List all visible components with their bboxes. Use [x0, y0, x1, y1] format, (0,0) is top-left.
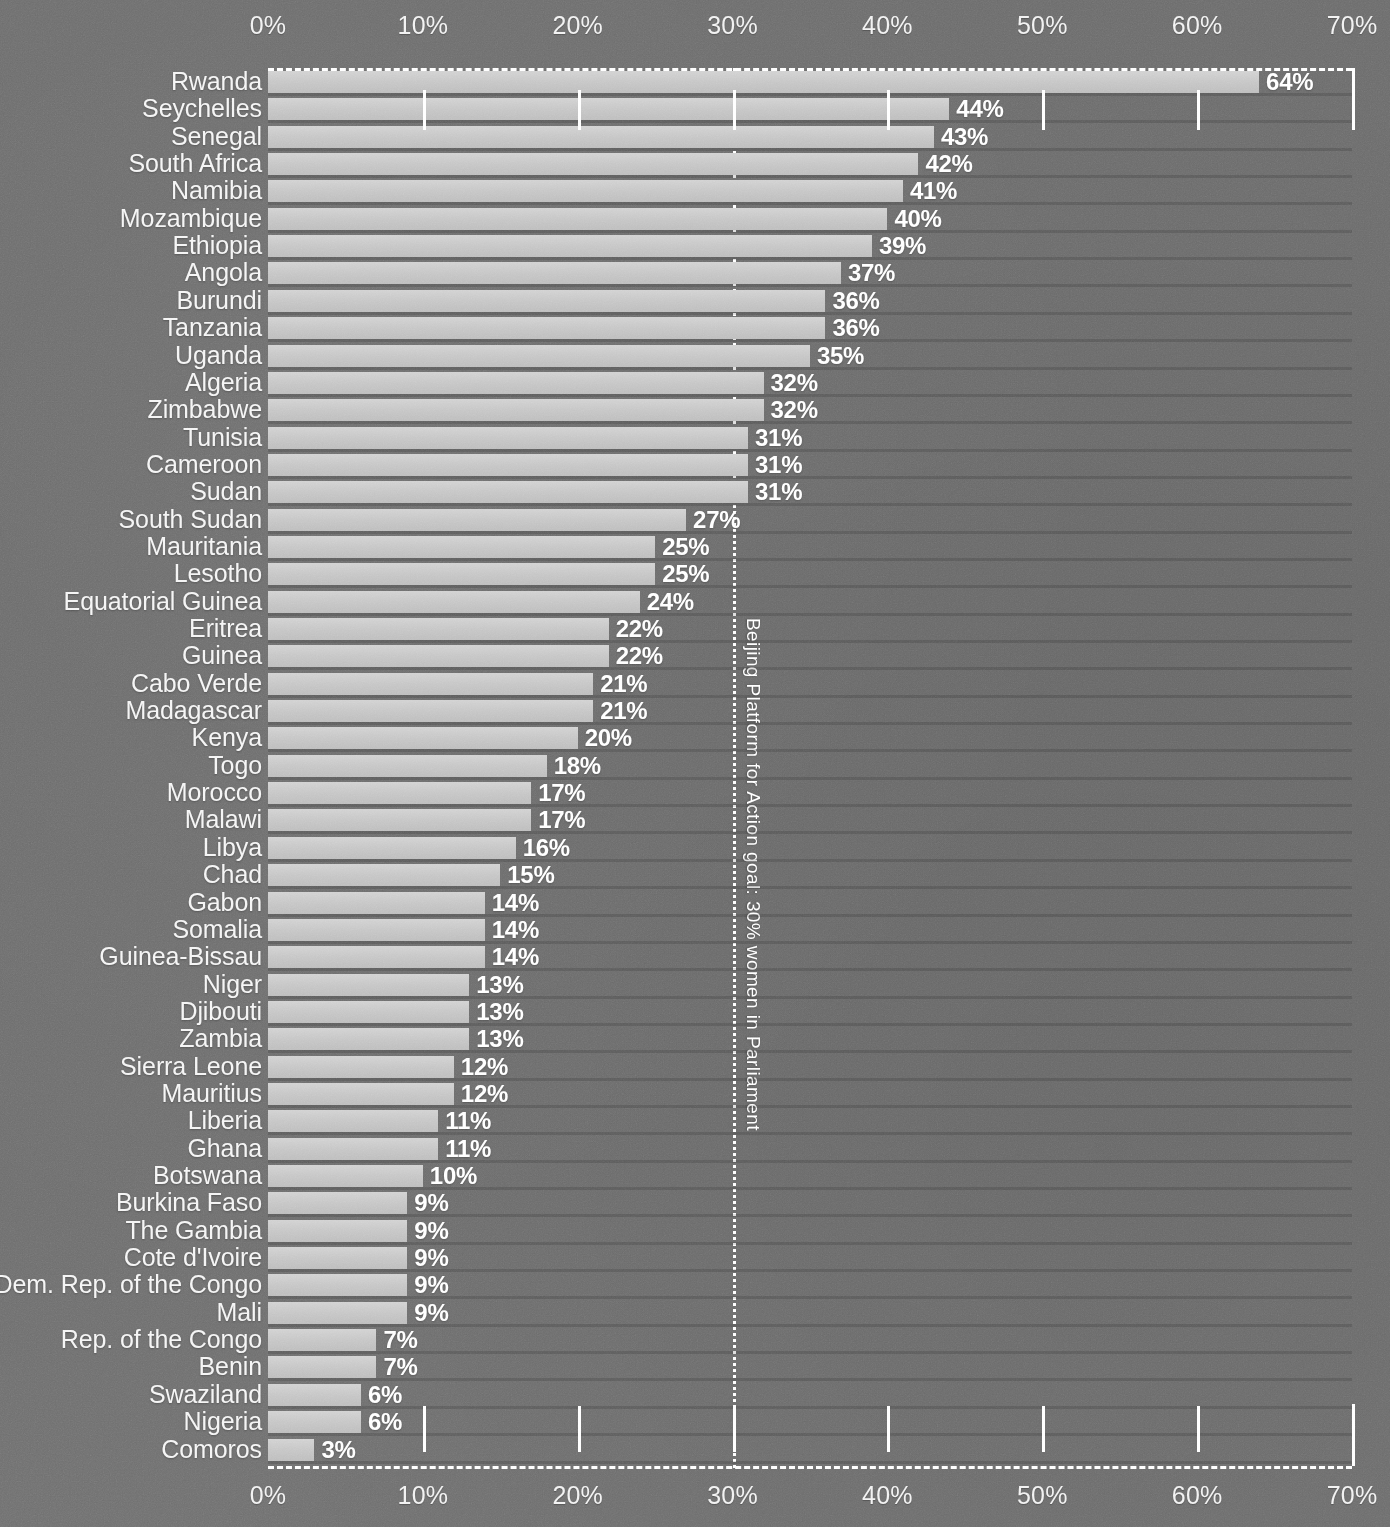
row-separator [268, 1023, 1352, 1026]
category-label: Tanzania [163, 313, 262, 342]
bar-row: Guinea-Bissau14% [268, 946, 1352, 968]
bar [268, 727, 578, 749]
axis-tick-label: 70% [1327, 1481, 1378, 1510]
bar-row: Chad15% [268, 864, 1352, 886]
bar-row: Mali9% [268, 1302, 1352, 1324]
bar-row: Dem. Rep. of the Congo9% [268, 1274, 1352, 1296]
row-separator [268, 585, 1352, 588]
bar [268, 1384, 361, 1406]
axis-tick-label: 0% [250, 11, 287, 40]
category-label: Algeria [185, 368, 262, 397]
axis-tick-label: 50% [1017, 1481, 1068, 1510]
category-label: Madagascar [125, 696, 262, 725]
category-label: Guinea [182, 641, 262, 670]
axis-tick-label: 50% [1017, 11, 1068, 40]
bar-value-label: 17% [538, 806, 585, 834]
bar-value-label: 11% [445, 1107, 491, 1135]
bar-row: Namibia41% [268, 180, 1352, 202]
bar [268, 673, 593, 695]
bar [268, 1028, 469, 1050]
bar-row: Swaziland6% [268, 1384, 1352, 1406]
bar-row: Niger13% [268, 974, 1352, 996]
bar-row: Zambia13% [268, 1028, 1352, 1050]
category-label: Mali [217, 1298, 262, 1327]
category-label: Togo [208, 751, 262, 780]
category-label: Burundi [177, 286, 262, 315]
bar-value-label: 9% [414, 1271, 448, 1299]
bar-row: Comoros3% [268, 1439, 1352, 1461]
bar-row: Sudan31% [268, 481, 1352, 503]
category-label: Ethiopia [172, 231, 262, 260]
category-label: Sierra Leone [120, 1052, 262, 1081]
bar-value-label: 37% [848, 259, 895, 287]
axis-tick-label: 60% [1172, 11, 1223, 40]
bar-value-label: 9% [414, 1189, 448, 1217]
category-label: South Africa [128, 149, 262, 178]
bar [268, 919, 485, 941]
bar [268, 1247, 407, 1269]
bar-value-label: 14% [492, 943, 539, 971]
row-separator [268, 640, 1352, 643]
row-separator [268, 1324, 1352, 1327]
bar [268, 618, 609, 640]
bar-value-label: 16% [523, 834, 570, 862]
category-label: Dem. Rep. of the Congo [0, 1270, 262, 1299]
bar-row: Rep. of the Congo7% [268, 1329, 1352, 1351]
bar-value-label: 9% [414, 1299, 448, 1327]
bar-chart: 0%10%20%30%40%50%60%70% Beijing Platform… [0, 0, 1390, 1527]
category-label: Ghana [187, 1134, 262, 1163]
bar-row: Seychelles44% [268, 98, 1352, 120]
bar-value-label: 21% [600, 697, 647, 725]
category-label: Mauritius [161, 1079, 262, 1108]
bar [268, 1138, 438, 1160]
bar-value-label: 27% [693, 506, 740, 534]
bar-value-label: 44% [956, 95, 1003, 123]
row-separator [268, 202, 1352, 205]
bar [268, 700, 593, 722]
bar-value-label: 18% [554, 752, 601, 780]
row-separator [268, 531, 1352, 534]
bar-value-label: 43% [941, 123, 988, 151]
row-separator [268, 859, 1352, 862]
bar [268, 1274, 407, 1296]
bar-row: Tanzania36% [268, 317, 1352, 339]
row-separator [268, 1078, 1352, 1081]
bar-row: Eritrea22% [268, 618, 1352, 640]
bar [268, 1001, 469, 1023]
row-separator [268, 558, 1352, 561]
category-label: Seychelles [142, 94, 262, 123]
bar-value-label: 13% [476, 1025, 523, 1053]
bar-row: Morocco17% [268, 782, 1352, 804]
category-label: Uganda [175, 341, 262, 370]
bar-row: Mauritania25% [268, 536, 1352, 558]
bar [268, 153, 918, 175]
row-separator [268, 175, 1352, 178]
category-label: Burkina Faso [116, 1188, 262, 1217]
plot-area: Beijing Platform for Action goal: 30% wo… [268, 68, 1352, 1468]
bar-row: Liberia11% [268, 1110, 1352, 1132]
bar [268, 399, 764, 421]
category-label: Sudan [190, 477, 262, 506]
bar-value-label: 31% [755, 451, 802, 479]
bar-row: Somalia14% [268, 919, 1352, 941]
bar-row: Libya16% [268, 837, 1352, 859]
axis-tick-label: 60% [1172, 1481, 1223, 1510]
axis-tick-label: 20% [552, 11, 603, 40]
gridline-tick [733, 1406, 736, 1452]
category-label: Rwanda [171, 67, 262, 96]
axis-top: 0%10%20%30%40%50%60%70% [0, 11, 1390, 45]
bar-row: Malawi17% [268, 809, 1352, 831]
row-separator [268, 667, 1352, 670]
bar-row: Algeria32% [268, 372, 1352, 394]
bar-row: Sierra Leone12% [268, 1056, 1352, 1078]
axis-tick-label: 20% [552, 1481, 603, 1510]
category-label: Botswana [153, 1161, 262, 1190]
row-separator [268, 722, 1352, 725]
bar-value-label: 14% [492, 916, 539, 944]
bar [268, 1165, 423, 1187]
bar-row: Guinea22% [268, 645, 1352, 667]
category-label: Cote d'Ivoire [124, 1243, 262, 1272]
category-label: Rep. of the Congo [61, 1325, 262, 1354]
category-label: Liberia [188, 1106, 262, 1135]
bar-value-label: 12% [461, 1080, 508, 1108]
